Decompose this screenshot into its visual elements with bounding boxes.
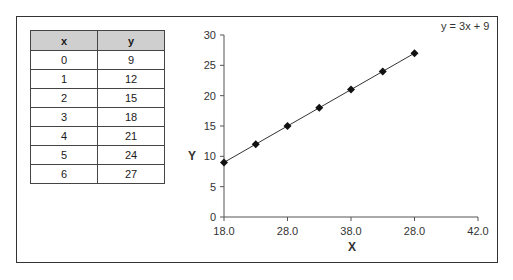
y-tick-label: 30 (204, 29, 216, 41)
x-tick-label: 42.0 (467, 225, 488, 237)
y-tick-label: 15 (204, 120, 216, 132)
data-point-marker (252, 140, 260, 148)
y-tick-label: 0 (210, 211, 216, 223)
y-tick-label: 5 (210, 181, 216, 193)
x-tick-label: 18.0 (213, 225, 234, 237)
data-point-marker (315, 104, 323, 112)
y-axis: 051015202530 (204, 29, 224, 223)
y-tick-label: 25 (204, 59, 216, 71)
data-point-marker (347, 86, 355, 94)
equation-annotation: y = 3x + 9 (441, 20, 489, 32)
x-axis-label: X (348, 240, 356, 254)
x-tick-label: 38.0 (340, 225, 361, 237)
y-tick-label: 10 (204, 150, 216, 162)
data-point-marker (411, 49, 419, 57)
x-tick-label: 28.0 (404, 225, 425, 237)
data-point-marker (379, 67, 387, 75)
data-point-marker (284, 122, 292, 130)
x-axis: 18.028.038.028.042.0 (213, 217, 488, 237)
y-tick-label: 20 (204, 90, 216, 102)
line-chart: 051015202530 18.028.038.028.042.0 Y X y … (0, 0, 513, 280)
x-tick-label: 28.0 (277, 225, 298, 237)
y-axis-label: Y (188, 149, 196, 163)
plot-area (220, 49, 419, 166)
data-point-marker (220, 158, 228, 166)
